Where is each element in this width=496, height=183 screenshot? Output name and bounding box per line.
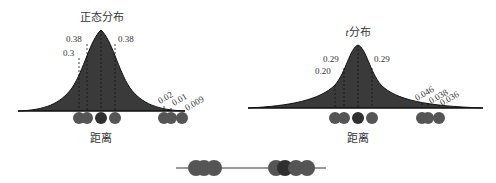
normal-axis-label: 距离 bbox=[90, 131, 112, 145]
label-038-left: 0.38 bbox=[66, 34, 82, 44]
low-dim-embedding bbox=[176, 160, 326, 176]
normal-data-points bbox=[73, 112, 188, 124]
label-03: 0.3 bbox=[63, 48, 75, 58]
normal-distribution-panel: 正态分布 0.38 0.3 0.38 0.02 0.01 0.009 距离 bbox=[18, 11, 206, 145]
normal-title: 正态分布 bbox=[80, 11, 124, 24]
label-038-right: 0.38 bbox=[118, 34, 134, 44]
t-axis-label: 距离 bbox=[347, 131, 369, 145]
t-distribution-panel: t分布 0.29 0.20 0.29 0.046 0.038 0.036 距离 bbox=[248, 26, 483, 145]
t-title: t分布 bbox=[345, 26, 370, 39]
diagram-canvas: 正态分布 0.38 0.3 0.38 0.02 0.01 0.009 距离 bbox=[0, 0, 496, 183]
t-data-points bbox=[329, 112, 445, 124]
label-020: 0.20 bbox=[315, 66, 331, 76]
label-029-left: 0.29 bbox=[323, 54, 339, 64]
label-029-right: 0.29 bbox=[374, 54, 390, 64]
